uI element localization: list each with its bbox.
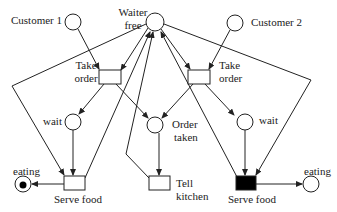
transition-serve-food2 <box>236 176 256 190</box>
arc-tellkitchen-waiter <box>126 32 153 178</box>
petri-net-diagram <box>0 0 337 212</box>
arc-takeorder2-wait2 <box>205 84 234 115</box>
label-take-order1-2: order <box>73 72 99 85</box>
arc-takeorder1-wait1 <box>79 84 104 114</box>
arc-waiter-takeorder2 <box>161 29 190 69</box>
label-eating1: eating <box>13 165 40 178</box>
label-tell-kitchen-2: kitchen <box>176 190 208 203</box>
place-eating2 <box>303 176 319 192</box>
place-waiter-free <box>146 13 164 31</box>
label-wait2: wait <box>259 114 278 127</box>
label-serve-food1: Serve food <box>54 193 102 206</box>
label-take-order2-1: Take <box>219 59 240 72</box>
transition-take-order1 <box>99 70 121 84</box>
label-waiter-free-2: free <box>118 19 148 32</box>
arc-servefood2-waiter <box>161 32 237 177</box>
place-customer2 <box>227 15 243 31</box>
label-wait1: wait <box>43 115 62 128</box>
label-waiter-free-1: Waiter <box>118 6 148 19</box>
transition-serve-food1 <box>64 176 85 190</box>
arc-servefood1-waiter <box>85 32 150 178</box>
arc-takeorder1-ordertaken <box>116 84 148 118</box>
place-wait2 <box>237 114 253 130</box>
label-order-taken-1: Order <box>172 118 198 131</box>
arc-waiter-servefood2 <box>164 24 311 175</box>
place-customer1 <box>65 14 81 30</box>
label-order-taken-2: taken <box>174 131 198 144</box>
transition-tell-kitchen <box>149 176 170 190</box>
arc-waiter-takeorder1 <box>121 28 148 70</box>
place-order-taken <box>147 117 163 133</box>
arc-takeorder2-ordertaken <box>162 84 193 118</box>
label-tell-kitchen-1: Tell <box>176 177 193 190</box>
transition-take-order2 <box>188 70 210 84</box>
label-take-order1-1: Take <box>73 59 99 72</box>
label-serve-food2: Serve food <box>228 193 276 206</box>
label-customer1: Customer 1 <box>11 14 62 27</box>
label-take-order2-2: order <box>219 72 242 85</box>
label-customer2: Customer 2 <box>251 16 302 29</box>
place-wait1 <box>65 114 81 130</box>
token-icon <box>20 182 27 189</box>
label-eating2: eating <box>304 165 331 178</box>
